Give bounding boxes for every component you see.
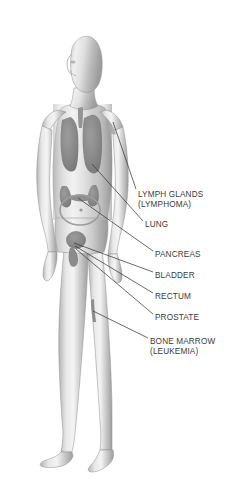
- annotation-bladder: BLADDER: [155, 271, 195, 281]
- annotation-lymph-glands: LYMPH GLANDS (LYMPHOMA): [138, 190, 203, 209]
- annotation-bone-marrow-label: BONE MARROW: [150, 337, 215, 346]
- annotation-prostate-label: PROSTATE: [155, 313, 199, 322]
- annotation-bladder-label: BLADDER: [155, 271, 195, 280]
- annotation-lung: LUNG: [145, 220, 168, 230]
- annotation-bone-marrow-sublabel: (LEUKEMIA): [150, 347, 215, 357]
- annotation-lung-label: LUNG: [145, 220, 168, 229]
- annotation-labels: LYMPH GLANDS (LYMPHOMA) LUNG PANCREAS BL…: [0, 0, 231, 498]
- annotation-pancreas: PANCREAS: [155, 250, 201, 260]
- annotation-rectum-label: RECTUM: [155, 292, 191, 301]
- annotation-pancreas-label: PANCREAS: [155, 250, 201, 259]
- annotation-lymph-glands-label: LYMPH GLANDS: [138, 190, 203, 199]
- annotation-prostate: PROSTATE: [155, 313, 199, 323]
- annotation-rectum: RECTUM: [155, 292, 191, 302]
- annotation-lymph-glands-sublabel: (LYMPHOMA): [138, 200, 203, 210]
- anatomy-diagram: LYMPH GLANDS (LYMPHOMA) LUNG PANCREAS BL…: [0, 0, 231, 498]
- annotation-bone-marrow: BONE MARROW (LEUKEMIA): [150, 337, 215, 356]
